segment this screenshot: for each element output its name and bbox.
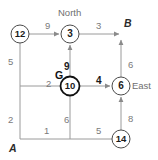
edge-weight-e_10_3: 9: [64, 62, 70, 72]
node-value: 10: [65, 80, 76, 91]
edge-weight-e_bot_14: 5: [96, 126, 101, 136]
graph-node-3[interactable]: 3: [61, 25, 79, 43]
edge-weight-e_3_B: 3: [96, 21, 101, 31]
node-value: 3: [67, 28, 73, 39]
goal-marker-label: G: [55, 70, 63, 81]
edge-weight-e_mid_10: 6: [64, 115, 69, 125]
edge-weight-e_12_mid: 5: [8, 57, 13, 67]
node-value: 14: [116, 133, 127, 144]
node-value: 12: [15, 28, 26, 39]
graph-node-6[interactable]: 6: [112, 77, 130, 95]
endpoint-label-A: A: [9, 143, 17, 154]
edge-weight-e_6_B: 6: [128, 60, 133, 70]
endpoint-label-B: B: [124, 18, 132, 29]
edge-weight-e_14_6: 8: [128, 114, 133, 124]
compass-east-label: East: [132, 81, 151, 91]
edge-weight-e_left_10: 2: [46, 79, 51, 89]
edge-weight-e_A_mid: 2: [8, 115, 13, 125]
edge-weight-e_A_bot: 1: [44, 126, 49, 136]
edge-weight-e_10_6: 4: [96, 76, 102, 86]
graph-node-14[interactable]: 14: [112, 130, 130, 148]
graph-node-10[interactable]: 10: [61, 77, 80, 96]
edge-weight-e_12_3: 9: [45, 21, 50, 31]
node-value: 6: [118, 80, 124, 91]
diagram-canvas: 12310614 North East B A G 935962426815: [0, 0, 158, 160]
compass-north-label: North: [58, 8, 81, 18]
graph-node-12[interactable]: 12: [11, 25, 29, 43]
